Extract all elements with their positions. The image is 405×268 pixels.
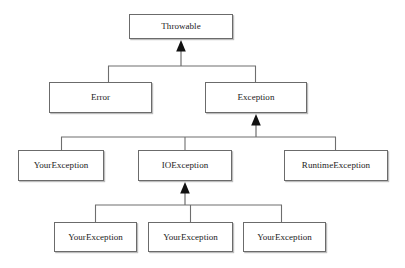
class-node-runtimeexception[interactable]: RuntimeException xyxy=(284,150,388,181)
class-node-throwable[interactable]: Throwable xyxy=(129,14,233,39)
class-node-yourexception-l4-c[interactable]: YourException xyxy=(243,222,326,252)
class-node-label: YourException xyxy=(257,233,312,242)
generalization-arrowhead-ioexception xyxy=(180,182,190,194)
class-node-label: YourException xyxy=(163,233,218,242)
class-node-label: YourException xyxy=(68,233,123,242)
class-node-error[interactable]: Error xyxy=(49,82,152,113)
class-node-exception[interactable]: Exception xyxy=(205,82,307,113)
class-node-label: Error xyxy=(91,93,110,102)
class-node-label: YourException xyxy=(34,161,89,170)
generalization-arrowhead-exception xyxy=(251,114,261,126)
class-node-label: IOException xyxy=(162,161,209,170)
class-node-yourexception-l3[interactable]: YourException xyxy=(18,150,104,181)
class-node-yourexception-l4-b[interactable]: YourException xyxy=(148,222,233,252)
class-node-yourexception-l4-a[interactable]: YourException xyxy=(54,222,137,252)
class-node-label: RuntimeException xyxy=(302,161,370,170)
edge-group-exception xyxy=(61,114,336,150)
class-node-label: Exception xyxy=(238,93,275,102)
class-hierarchy-diagram: Throwable Error Exception YourException … xyxy=(0,0,405,268)
class-node-label: Throwable xyxy=(161,22,200,31)
class-node-ioexception[interactable]: IOException xyxy=(138,150,232,181)
edge-group-ioexception xyxy=(95,182,282,222)
edge-group-throwable xyxy=(108,40,256,82)
generalization-arrowhead-throwable xyxy=(176,40,186,52)
